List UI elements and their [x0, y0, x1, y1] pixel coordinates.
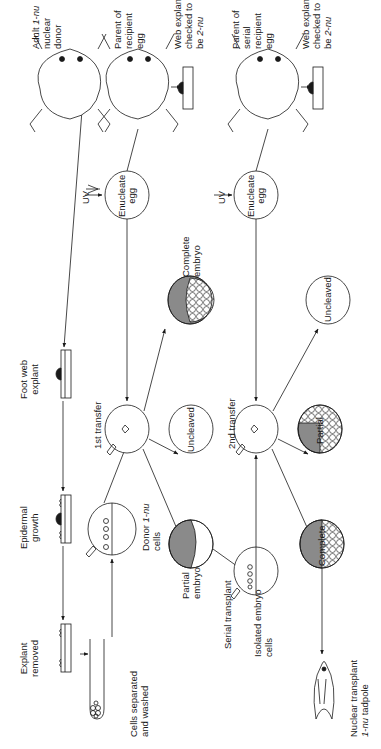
label-web-explant-1: Web explantchecked tobe 2-nu: [172, 0, 205, 49]
label-partial-embryo: Partialembryo: [180, 567, 202, 599]
label-epidermal-growth: Epidermalgrowth: [18, 506, 40, 549]
donor-cells-egg: [86, 503, 136, 557]
tube: [90, 639, 104, 719]
label-second-transfer: 2nd transfer: [226, 398, 237, 449]
tadpole: [314, 662, 334, 720]
diagram-graphics: [0, 0, 381, 749]
label-foot-web-explant: Foot webexplant: [18, 360, 40, 399]
label-tadpole: Nuclear transplant1-nu tadpole: [348, 660, 370, 737]
label-donor-cells: Donor 1-nucells: [140, 503, 162, 551]
dish-epidermal-growth: [56, 495, 71, 543]
second-transfer-egg: [234, 405, 278, 455]
complete-embryo-1: [168, 276, 214, 324]
label-complete-2: Complete: [317, 525, 327, 566]
label-enucleate-egg-2: Enucleateegg: [246, 175, 266, 217]
partial-embryo-1: [169, 520, 213, 568]
label-uv-1: UV: [80, 191, 91, 204]
dish-web-explant-2: [308, 67, 323, 109]
first-transfer-egg: [105, 405, 149, 455]
label-partial-2: Partial: [315, 417, 325, 444]
label-parent-serial: Parent ofserialrecipientegg: [230, 10, 274, 49]
dish-foot-web-explant: [56, 350, 71, 398]
label-uncleaved-2: Uncleaved: [323, 277, 333, 322]
dish-web-explant-1: [178, 67, 193, 109]
label-web-explant-2: Web explantchecked tobe 2-nu: [300, 0, 333, 49]
label-explant-removed: Explantremoved: [18, 640, 40, 677]
label-uv-2: UV: [216, 191, 227, 204]
label-complete-embryo: Completeembryo: [180, 236, 202, 277]
diagram-canvas: Explantremoved Epidermalgrowth Foot webe…: [0, 0, 381, 749]
dish-explant-removed: [60, 624, 72, 672]
label-cells-separated: Cells separatedand washed: [128, 671, 150, 737]
label-adult-donor: Adult 1-nunucleardonor: [30, 6, 63, 49]
label-parent-recipient: Parent ofrecipientegg: [112, 10, 145, 49]
label-uncleaved-1: Uncleaved: [186, 407, 196, 452]
label-enucleate-egg-1: Enucleateegg: [117, 175, 137, 217]
label-first-transfer: 1st transfer: [92, 401, 103, 449]
label-isolated-cells: Isolated embryocells: [252, 589, 274, 657]
label-serial-transplant: Serial transplant: [222, 580, 233, 649]
